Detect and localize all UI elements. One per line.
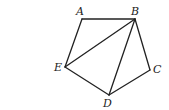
label-c: C xyxy=(153,64,161,75)
label-e: E xyxy=(54,62,62,73)
segment-bc xyxy=(135,19,150,70)
label-d: D xyxy=(103,98,112,109)
label-b: B xyxy=(131,6,139,17)
segment-de xyxy=(65,67,109,95)
diagram-canvas xyxy=(0,0,169,110)
segment-cd xyxy=(109,70,150,95)
segment-bd xyxy=(109,19,135,95)
segment-ea xyxy=(65,19,82,67)
label-a: A xyxy=(76,6,84,17)
segment-be xyxy=(65,19,135,67)
pentagon-diagram: A B C D E xyxy=(0,0,169,110)
